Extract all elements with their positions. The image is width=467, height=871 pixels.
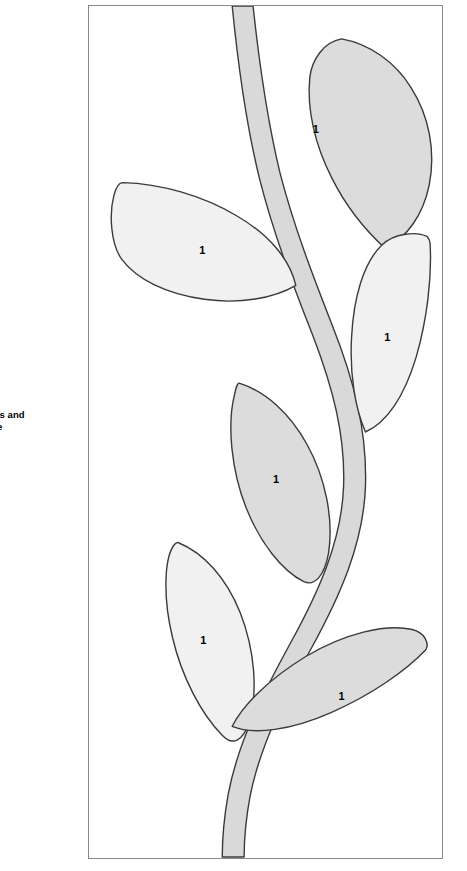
leaf-bottom-right-shape <box>232 628 427 731</box>
leaf-top-right-shape <box>309 39 432 249</box>
page-canvas: Patterns and Guide 1 1 1 <box>0 0 467 871</box>
leaf-top-right-number: 1 <box>313 123 319 135</box>
caption-line-2: Guide <box>0 421 86 433</box>
leaf-middle-left-shape <box>231 383 330 583</box>
leaf-bottom-right-number: 1 <box>339 690 345 702</box>
leaf-top-right: 1 <box>309 39 432 249</box>
caption-line-1: Patterns and <box>0 409 86 421</box>
leaf-middle-left: 1 <box>231 383 330 583</box>
leaf-middle-left-number: 1 <box>273 473 279 485</box>
applique-pattern-panel: 1 1 1 1 1 <box>88 5 443 859</box>
leaf-middle-right-number: 1 <box>384 331 390 343</box>
leaf-middle-right-shape <box>351 234 430 432</box>
leaf-upper-left-number: 1 <box>199 244 205 256</box>
leaf-middle-right: 1 <box>351 234 430 432</box>
leaf-lower-left-number: 1 <box>200 634 206 646</box>
vine-pattern-illustration: 1 1 1 1 1 <box>89 6 442 858</box>
leaf-bottom-right: 1 <box>232 628 427 731</box>
page-caption: Patterns and Guide <box>0 409 86 432</box>
